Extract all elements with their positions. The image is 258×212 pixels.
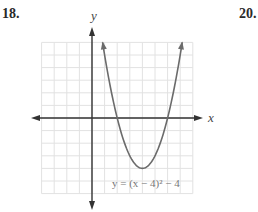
y-axis-up-arrow-icon	[89, 27, 95, 36]
equation-label: y = (x − 4)² − 4	[112, 177, 180, 190]
x-axis-right-arrow-icon	[194, 115, 203, 121]
parabola-graph: x y y = (x − 4)² − 4	[0, 0, 258, 212]
y-axis-label: y	[89, 8, 97, 23]
y-axis-down-arrow-icon	[89, 201, 95, 210]
x-axis-label: x	[207, 110, 214, 125]
x-axis-left-arrow-icon	[31, 115, 40, 121]
